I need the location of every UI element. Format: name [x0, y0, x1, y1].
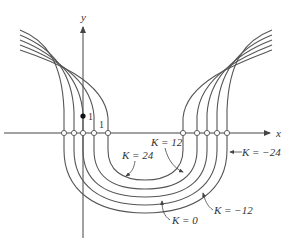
intercept-dot	[105, 130, 110, 135]
intercept-dot	[224, 130, 229, 135]
x-tick-label-1: 1	[99, 119, 104, 130]
intercept-dot	[71, 130, 76, 135]
intercept-dot	[194, 130, 199, 135]
marked-point	[80, 113, 85, 118]
pointer-k-24	[126, 161, 135, 176]
label-k-0: K = 0	[171, 214, 198, 226]
pointer-k-12	[165, 148, 183, 172]
label-k-24: K = 24	[121, 149, 154, 161]
level-curves	[20, 30, 272, 213]
curve-k-minus-24	[20, 30, 272, 213]
intercept-dot	[91, 130, 96, 135]
y-axis-label: y	[80, 11, 86, 23]
label-k-minus-24: K = −24	[241, 146, 281, 158]
x-axis-label: x	[275, 127, 281, 139]
intercept-dot	[180, 130, 185, 135]
label-k-minus-12: K = −12	[213, 204, 253, 216]
intercept-dot	[214, 130, 219, 135]
pointer-k-minus-12	[203, 193, 213, 210]
intercept-dot	[204, 130, 209, 135]
level-curves-diagram: x y 1 1 K = 24 K = 12 K = 0	[0, 0, 297, 238]
intercept-dot	[61, 130, 66, 135]
label-k-12: K = 12	[150, 136, 183, 148]
intercept-dot	[80, 130, 85, 135]
y-tick-label-1: 1	[88, 111, 93, 122]
